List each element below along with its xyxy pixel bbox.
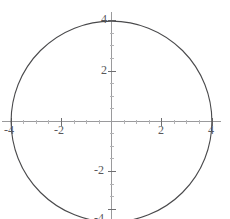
x-tick-label-pos4: 4 — [208, 124, 214, 136]
x-tick-label-neg2: -2 — [54, 124, 64, 136]
clipped-top-text-band — [0, 0, 230, 4]
y-tick-label-neg2: -2 — [94, 164, 104, 176]
y-tick-label-pos2: 2 — [101, 64, 107, 76]
x-tick-label-neg4: -4 — [4, 124, 14, 136]
plot-figure: -4 -2 2 4 4 2 -2 -4 — [0, 0, 230, 219]
y-tick-label-pos4: 4 — [101, 13, 107, 25]
y-tick-label-neg4: -4 — [94, 212, 104, 219]
x-tick-label-pos2: 2 — [158, 124, 164, 136]
plot-canvas — [0, 0, 230, 219]
